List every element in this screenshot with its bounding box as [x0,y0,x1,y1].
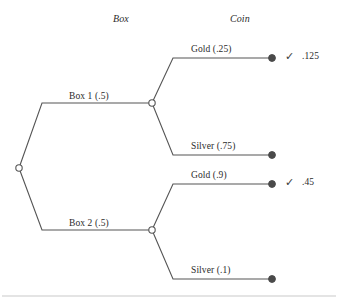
endpoint-dot-box2-gold [269,181,276,188]
check-icon-box1-gold: ✓ [285,51,294,62]
outcome-value-box1-gold: .125 [302,52,319,62]
branch-label-box2-gold: Gold (.9) [191,171,227,181]
probability-tree-figure: Box Coin Box 1 (.5) Box 2 (.5) Gold (.25… [0,0,338,304]
endpoint-dot-box1-gold [269,55,276,62]
endpoint-dot-box1-silver [269,152,276,159]
root-node [16,165,22,171]
edge-box1-to-gold [152,58,272,103]
edge-box2-to-gold [152,184,272,230]
node-box1 [149,100,155,106]
branch-label-box2: Box 2 (.5) [69,219,109,229]
node-box2 [149,227,155,233]
branch-label-box2-silver: Silver (.1) [191,266,231,276]
check-icon-box2-gold: ✓ [285,177,294,188]
branch-label-box1: Box 1 (.5) [69,92,109,102]
column-header-box: Box [113,14,129,24]
endpoint-dot-box2-silver [269,276,276,283]
column-header-coin: Coin [230,14,250,24]
branch-label-box1-gold: Gold (.25) [191,45,232,55]
tree-graphic [0,0,338,304]
branch-label-box1-silver: Silver (.75) [191,142,235,152]
outcome-value-box2-gold: .45 [302,178,314,188]
edge-root-to-box1 [19,103,152,168]
